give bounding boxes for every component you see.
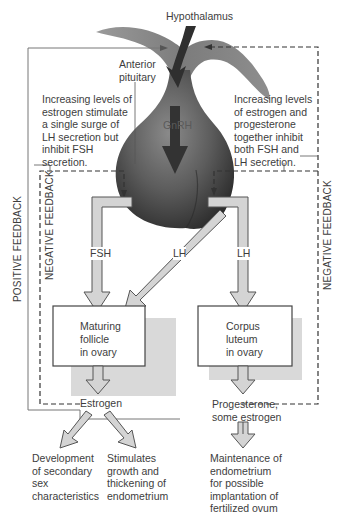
- negative-feedback-right-label: NEGATIVE FEEDBACK: [322, 180, 333, 290]
- estrogen-label: Estrogen: [80, 397, 122, 410]
- estrogen-to-secondary-sex-arrow: [60, 411, 92, 448]
- left-feedback-note: Increasing levels of estrogen stimulate …: [42, 93, 132, 168]
- secondary-sex-effect: Development of secondary sex characteris…: [32, 452, 99, 502]
- endometrium-maintenance-effect: Maintenance of endometrium for possible …: [210, 452, 282, 515]
- progesterone-label: Progesterone, some estrogen: [212, 398, 281, 423]
- fsh-label: FSH: [90, 247, 111, 260]
- follicle-box-label: Maturing follicle in ovary: [80, 320, 121, 359]
- lh-diagonal-label: LH: [173, 247, 186, 260]
- endometrium-growth-effect: Stimulates growth and thickening of endo…: [107, 452, 168, 502]
- positive-feedback-label: POSITIVE FEEDBACK: [12, 196, 23, 302]
- gnrh-label: GnRH: [163, 119, 192, 132]
- corpus-box-label: Corpus luteum in ovary: [226, 320, 263, 359]
- lh-right-label: LH: [237, 247, 250, 260]
- hypothalamus-label: Hypothalamus: [166, 10, 233, 23]
- estrogen-to-endometrium-arrow: [104, 411, 136, 448]
- right-feedback-note: Increasing levels of estrogen and proges…: [234, 93, 312, 168]
- anterior-pituitary-label: Anterior pituitary: [119, 58, 156, 83]
- negative-feedback-left-label: NEGATIVE FEEDBACK: [44, 170, 55, 280]
- progesterone-to-maintenance-arrow: [231, 422, 255, 448]
